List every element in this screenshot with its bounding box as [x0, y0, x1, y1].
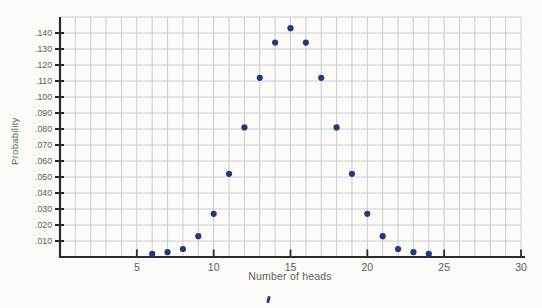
x-tick-label: 5	[134, 261, 140, 273]
screenshot-root: { "figure": { "background": "#fcfbf8" },…	[0, 0, 542, 308]
data-point-12	[241, 124, 247, 130]
y-tick-label: .080	[35, 124, 52, 134]
x-tick-label: 10	[208, 261, 220, 273]
y-tick-label: .090	[35, 108, 52, 118]
y-tick-label: .060	[35, 156, 52, 166]
data-point-19	[349, 171, 355, 177]
y-tick-label: .140	[35, 28, 52, 38]
y-tick-label: .050	[35, 172, 52, 182]
x-tick-label: 20	[361, 261, 373, 273]
y-tick-label: .070	[35, 140, 52, 150]
data-point-24	[426, 251, 432, 257]
data-point-16	[303, 40, 309, 46]
binomial-distribution-figure: .010.020.030.040.050.060.070.080.090.100…	[0, 0, 542, 308]
y-tick-label: .130	[35, 44, 52, 54]
data-point-15	[287, 25, 293, 31]
data-point-17	[318, 75, 324, 81]
data-point-21	[380, 233, 386, 239]
x-axis-title: Number of heads	[220, 270, 360, 282]
data-point-9	[195, 233, 201, 239]
y-tick-label: .010	[35, 236, 52, 246]
data-point-13	[257, 75, 263, 81]
data-point-7	[164, 249, 170, 255]
x-tick-label: 30	[515, 261, 527, 273]
y-tick-label: .030	[35, 204, 52, 214]
y-tick-label: .100	[35, 92, 52, 102]
data-point-23	[410, 249, 416, 255]
probability-scatter-plot: .010.020.030.040.050.060.070.080.090.100…	[0, 0, 542, 308]
data-point-6	[149, 251, 155, 257]
y-tick-label: .110	[36, 76, 52, 86]
y-tick-label: .120	[35, 60, 52, 70]
data-point-14	[272, 40, 278, 46]
data-point-8	[180, 246, 186, 252]
data-point-18	[334, 124, 340, 130]
y-tick-label: .040	[35, 188, 52, 198]
data-point-11	[226, 171, 232, 177]
y-tick-label: .020	[35, 220, 52, 230]
data-point-10	[211, 211, 217, 217]
y-axis-title: Probability	[9, 95, 23, 187]
x-tick-label: 25	[438, 261, 450, 273]
data-point-22	[395, 246, 401, 252]
data-point-20	[364, 211, 370, 217]
